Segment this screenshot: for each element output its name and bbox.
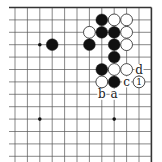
white-stone	[84, 26, 96, 38]
marker-b: b	[98, 87, 106, 101]
white-stone	[121, 14, 133, 26]
white-stone	[121, 26, 133, 38]
black-stone	[96, 64, 108, 76]
black-stone	[96, 14, 108, 26]
stone-move-number: 1	[136, 77, 142, 87]
white-stone	[108, 14, 120, 26]
white-stone	[108, 64, 120, 76]
black-stone	[46, 39, 58, 51]
star-point	[112, 117, 116, 121]
white-stone	[96, 76, 108, 88]
white-stone	[121, 39, 133, 51]
black-stone	[108, 51, 120, 63]
marker-d: d	[135, 63, 143, 77]
black-stone	[96, 26, 108, 38]
black-stone	[84, 39, 96, 51]
black-stone	[108, 26, 120, 38]
black-stone	[108, 39, 120, 51]
go-board-diagram: 1 dcba	[0, 0, 162, 162]
marker-a: a	[111, 87, 118, 101]
white-stone	[121, 64, 133, 76]
white-stone: 1	[133, 76, 145, 88]
marker-c: c	[123, 75, 130, 89]
star-point	[38, 43, 42, 47]
star-point	[38, 117, 42, 121]
black-stone	[108, 76, 120, 88]
